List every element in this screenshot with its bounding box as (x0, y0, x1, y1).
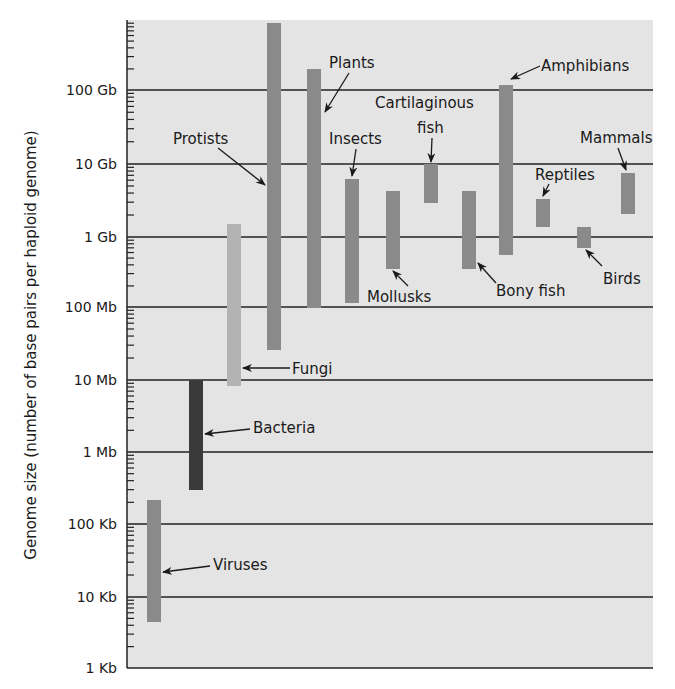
bar-mammals (621, 173, 635, 214)
plot-area (127, 20, 653, 668)
tick-label-10gb: 10 Gb (75, 156, 117, 172)
bar-insects (345, 179, 359, 303)
bar-mollusks (386, 191, 400, 269)
tick-label-10kb: 10 Kb (77, 589, 117, 605)
label-viruses: Viruses (213, 556, 268, 574)
label-fungi: Fungi (292, 360, 333, 378)
label-cartilaginous-line2: fish (417, 119, 444, 137)
bar-bacteria (189, 380, 203, 490)
label-mammals: Mammals (580, 129, 653, 147)
bar-amphibians (499, 85, 513, 255)
label-amphibians: Amphibians (541, 57, 629, 75)
label-bacteria: Bacteria (253, 419, 315, 437)
bar-birds (577, 227, 591, 248)
bar-protists (267, 23, 281, 350)
label-protists: Protists (173, 130, 229, 148)
bar-cartilaginous-fish (424, 164, 438, 203)
label-reptiles: Reptiles (535, 166, 595, 184)
tick-label-1kb: 1 Kb (86, 660, 118, 676)
tick-label-100kb: 100 Kb (68, 516, 117, 532)
bar-bony-fish (462, 191, 476, 269)
label-bony-fish: Bony fish (496, 282, 565, 300)
label-mollusks: Mollusks (367, 288, 431, 306)
genome-size-chart: 100 Gb 10 Gb 1 Gb 100 Mb 10 Mb 1 Mb 100 … (0, 0, 675, 689)
tick-label-1mb: 1 Mb (83, 444, 117, 460)
label-birds: Birds (603, 270, 641, 288)
y-tick-labels: 100 Gb 10 Gb 1 Gb 100 Mb 10 Mb 1 Mb 100 … (65, 82, 117, 676)
y-axis-title: Genome size (number of base pairs per ha… (22, 130, 40, 559)
bar-fungi (227, 224, 241, 386)
tick-label-10mb: 10 Mb (74, 372, 117, 388)
bar-viruses (147, 500, 161, 622)
tick-label-100mb: 100 Mb (65, 299, 117, 315)
bar-plants (307, 69, 321, 308)
tick-label-1gb: 1 Gb (84, 229, 117, 245)
label-insects: Insects (329, 130, 382, 148)
label-cartilaginous-line1: Cartilaginous (375, 94, 474, 112)
bar-reptiles (536, 199, 550, 227)
label-plants: Plants (329, 54, 375, 72)
tick-label-100gb: 100 Gb (66, 82, 117, 98)
